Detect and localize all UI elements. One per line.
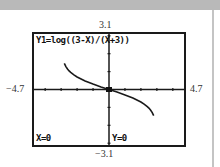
cursor-y-readout: Y=0 bbox=[112, 134, 127, 143]
graph-plot bbox=[34, 34, 184, 145]
page-edge-line bbox=[212, 10, 214, 167]
ymin-label: −3.1 bbox=[95, 149, 113, 159]
top-band bbox=[0, 0, 220, 10]
xmax-label: 4.7 bbox=[190, 84, 203, 94]
cursor-x-readout: X=0 bbox=[36, 134, 51, 143]
trace-cursor bbox=[106, 87, 112, 92]
xmin-label: −4.7 bbox=[6, 84, 24, 94]
ymax-label: 3.1 bbox=[99, 20, 112, 30]
equation-label: Y1=log((3-X)/(X+3)) bbox=[36, 36, 129, 45]
calculator-graph-screen: Y1=log((3-X)/(X+3)) X=0 Y=0 bbox=[32, 32, 186, 147]
